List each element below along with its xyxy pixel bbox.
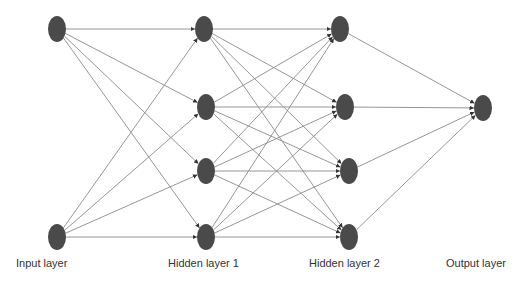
hidden1-neuron-1 (195, 16, 213, 42)
input-neuron-2 (48, 224, 66, 250)
hidden1-neuron-2 (197, 94, 215, 120)
hidden-layer-1-label: Hidden layer 1 (168, 257, 239, 269)
hidden2-neuron-3 (340, 158, 358, 184)
connection-edge (348, 34, 474, 104)
hidden1-neuron-3 (197, 158, 215, 184)
hidden2-neuron-2 (336, 94, 354, 120)
output-layer-label: Output layer (446, 257, 506, 269)
connection-edge (354, 107, 474, 108)
hidden2-neuron-1 (331, 16, 349, 42)
neurons (48, 16, 492, 250)
network-graph (0, 0, 521, 284)
connections (63, 29, 475, 237)
connection-edge (66, 175, 198, 233)
connection-edge (214, 114, 342, 230)
input-layer-label: Input layer (16, 257, 67, 269)
connection-edge (356, 115, 475, 230)
hidden2-neuron-4 (340, 224, 358, 250)
input-neuron-1 (48, 16, 66, 42)
hidden-layer-2-label: Hidden layer 2 (309, 257, 380, 269)
connection-edge (358, 112, 475, 167)
output-neuron-1 (474, 95, 492, 121)
hidden1-neuron-4 (197, 224, 215, 250)
neural-network-diagram: Input layer Hidden layer 1 Hidden layer … (0, 0, 521, 284)
connection-edge (65, 36, 199, 164)
